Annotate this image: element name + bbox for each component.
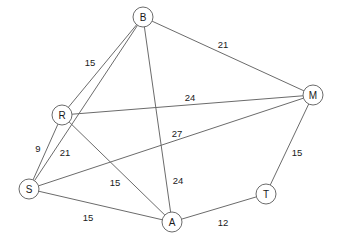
graph-edge-s-a bbox=[39, 191, 163, 220]
graph-edge-b-r bbox=[68, 25, 136, 108]
graph-node-m[interactable]: M bbox=[303, 85, 323, 105]
graph-edge-b-a bbox=[144, 27, 170, 212]
node-label-m: M bbox=[309, 90, 317, 101]
edge-weight-b-r: 15 bbox=[85, 57, 96, 68]
graph-node-b[interactable]: B bbox=[133, 7, 153, 27]
node-label-b: B bbox=[140, 12, 147, 23]
edge-weight-b-m: 21 bbox=[218, 39, 229, 50]
graph-canvas: 152124212491527151215 BMRSAT bbox=[0, 0, 342, 243]
edge-weight-r-s: 9 bbox=[35, 143, 40, 154]
node-label-r: R bbox=[58, 110, 65, 121]
edge-weight-r-m: 24 bbox=[185, 92, 196, 103]
edge-weight-s-a: 15 bbox=[83, 212, 94, 223]
edge-weight-s-m: 27 bbox=[172, 128, 183, 139]
graph-node-t[interactable]: T bbox=[256, 184, 276, 204]
node-label-s: S bbox=[26, 184, 33, 195]
graph-edge-b-m bbox=[152, 21, 304, 91]
graph-node-r[interactable]: R bbox=[52, 105, 72, 125]
edge-weight-b-a: 24 bbox=[173, 175, 184, 186]
node-label-a: A bbox=[169, 217, 176, 228]
graph-edge-b-s bbox=[35, 25, 138, 180]
graph-edge-s-m bbox=[38, 98, 303, 186]
node-label-t: T bbox=[263, 189, 269, 200]
nodes-layer: BMRSAT bbox=[19, 7, 323, 232]
graph-node-s[interactable]: S bbox=[19, 179, 39, 199]
edge-weight-r-a: 15 bbox=[110, 177, 121, 188]
edge-weight-m-t: 15 bbox=[292, 147, 303, 158]
edge-weight-a-t: 12 bbox=[218, 217, 229, 228]
graph-diagram: 152124212491527151215 BMRSAT bbox=[0, 0, 342, 243]
graph-edge-m-t bbox=[270, 104, 308, 185]
edge-weight-b-s: 21 bbox=[60, 147, 71, 158]
graph-node-a[interactable]: A bbox=[162, 212, 182, 232]
